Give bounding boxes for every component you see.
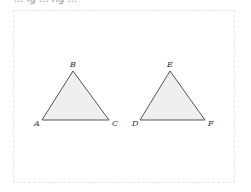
vertex-label-b: B — [69, 60, 76, 69]
vertex-label-f: F — [207, 119, 214, 128]
vertex-label-a: A — [33, 119, 40, 128]
vertex-label-c: C — [112, 119, 118, 128]
vertex-label-e: E — [166, 60, 173, 69]
triangle-def: D E F — [131, 60, 214, 128]
vertex-label-d: D — [131, 119, 139, 128]
triangles-diagram: A B C D E F — [0, 0, 251, 192]
triangle-abc: A B C — [33, 60, 118, 128]
